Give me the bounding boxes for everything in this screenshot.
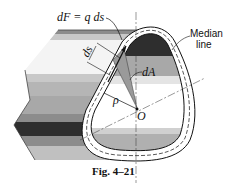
thin-walled-tube-diagram: dF = q ds ds dA ρ O Median line Fig. 4–2…: [0, 0, 232, 183]
force-label: dF = q ds: [57, 10, 104, 24]
median-label-line1: Median: [190, 28, 223, 39]
area-label: dA: [142, 65, 156, 79]
median-label-line2: line: [196, 39, 212, 50]
origin-label: O: [137, 109, 146, 123]
rho-label: ρ: [112, 93, 119, 107]
figure-caption: Fig. 4–21: [92, 165, 135, 177]
